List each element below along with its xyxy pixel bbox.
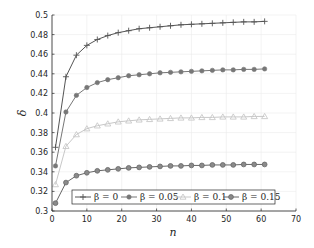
asterisk-marker-icon (106, 77, 110, 81)
circle-marker-icon (116, 166, 121, 171)
asterisk-marker-icon (189, 69, 193, 73)
asterisk-marker-icon (53, 164, 57, 168)
plus-marker-icon (199, 21, 205, 27)
circle-marker-icon (241, 162, 246, 167)
plus-marker-icon (147, 25, 153, 31)
asterisk-marker-icon (85, 85, 89, 89)
series-0.1 (52, 113, 267, 186)
circle-marker-icon (189, 163, 194, 168)
plus-marker-icon (94, 37, 100, 43)
series-group (52, 18, 267, 205)
asterisk-marker-icon (179, 70, 183, 74)
asterisk-marker-icon (242, 67, 246, 71)
y-tick-label: 0.38 (30, 129, 48, 138)
asterisk-marker-icon (116, 76, 120, 80)
asterisk-marker-icon (64, 110, 68, 114)
y-tick-label: 0.36 (30, 148, 48, 157)
circle-marker-icon (168, 164, 173, 169)
plus-marker-icon (188, 21, 194, 27)
legend: β = 0β = 0.05β = 0.1β = 0.15 (72, 190, 281, 204)
y-tick-label: 0.44 (30, 70, 48, 79)
circle-marker-icon (199, 163, 204, 168)
circle-marker-icon (64, 180, 69, 185)
asterisk-marker-icon (147, 72, 151, 76)
asterisk-marker-icon (168, 70, 172, 74)
asterisk-marker-icon (95, 80, 99, 84)
asterisk-marker-icon (221, 68, 225, 72)
circle-marker-icon (179, 164, 184, 169)
asterisk-marker-icon (158, 71, 162, 75)
asterisk-marker-icon (210, 68, 214, 72)
plus-marker-icon (220, 20, 226, 26)
plus-marker-icon (52, 144, 58, 150)
circle-marker-icon (137, 165, 142, 170)
circle-marker-icon (147, 165, 152, 170)
x-tick-label: 20 (117, 215, 127, 224)
y-tick-label: 0.3 (35, 207, 48, 216)
legend-label: β = 0.05 (140, 192, 179, 202)
x-tick-label: 50 (221, 215, 231, 224)
legend-label: β = 0.1 (194, 192, 227, 202)
legend-label: β = 0.15 (242, 192, 281, 202)
circle-marker-icon (53, 201, 58, 206)
y-tick-label: 0.4 (35, 109, 48, 118)
x-axis-label: n (169, 226, 176, 239)
circle-marker-icon (231, 163, 236, 168)
plus-marker-icon (63, 74, 69, 80)
circle-marker-icon (105, 167, 110, 172)
y-tick-label: 0.42 (30, 89, 48, 98)
y-tick-label: 0.32 (30, 187, 48, 196)
plus-marker-icon (105, 33, 111, 39)
y-tick-label: 0.46 (30, 50, 48, 59)
line-chart: 0102030405060700.30.320.340.360.380.40.4… (0, 0, 314, 248)
asterisk-marker-icon (231, 68, 235, 72)
plus-marker-icon (241, 19, 247, 25)
circle-marker-icon (84, 170, 89, 175)
circle-marker-icon (262, 162, 267, 167)
asterisk-marker-icon (200, 69, 204, 73)
y-axis-label: δ (16, 109, 29, 116)
circle-marker-icon (220, 163, 225, 168)
y-tick-label: 0.5 (35, 11, 48, 20)
x-tick-label: 30 (151, 215, 161, 224)
circle-marker-icon (95, 168, 100, 173)
circle-marker-icon (74, 173, 79, 178)
plus-marker-icon (209, 20, 215, 26)
plus-marker-icon (157, 24, 163, 30)
x-tick-label: 0 (49, 215, 54, 224)
x-tick-label: 70 (291, 215, 301, 224)
plus-marker-icon (126, 28, 132, 34)
plus-marker-icon (230, 19, 236, 25)
plus-marker-icon (262, 18, 268, 24)
asterisk-marker-icon (126, 74, 130, 78)
legend-label: β = 0 (94, 192, 118, 202)
y-tick-label: 0.48 (30, 31, 48, 40)
circle-marker-icon (210, 163, 215, 168)
circle-marker-icon (126, 165, 131, 170)
circle-marker-icon (229, 195, 234, 200)
asterisk-marker-icon (127, 195, 131, 199)
circle-marker-icon (252, 162, 257, 167)
plus-marker-icon (178, 22, 184, 28)
plus-marker-icon (168, 23, 174, 29)
asterisk-marker-icon (74, 93, 78, 97)
asterisk-marker-icon (262, 67, 266, 71)
x-tick-label: 40 (186, 215, 196, 224)
plus-marker-icon (136, 26, 142, 32)
y-tick-label: 0.34 (30, 168, 48, 177)
x-tick-label: 10 (82, 215, 92, 224)
asterisk-marker-icon (252, 67, 256, 71)
asterisk-marker-icon (137, 73, 141, 77)
x-tick-label: 60 (256, 215, 266, 224)
plus-marker-icon (251, 19, 257, 25)
circle-marker-icon (158, 164, 163, 169)
